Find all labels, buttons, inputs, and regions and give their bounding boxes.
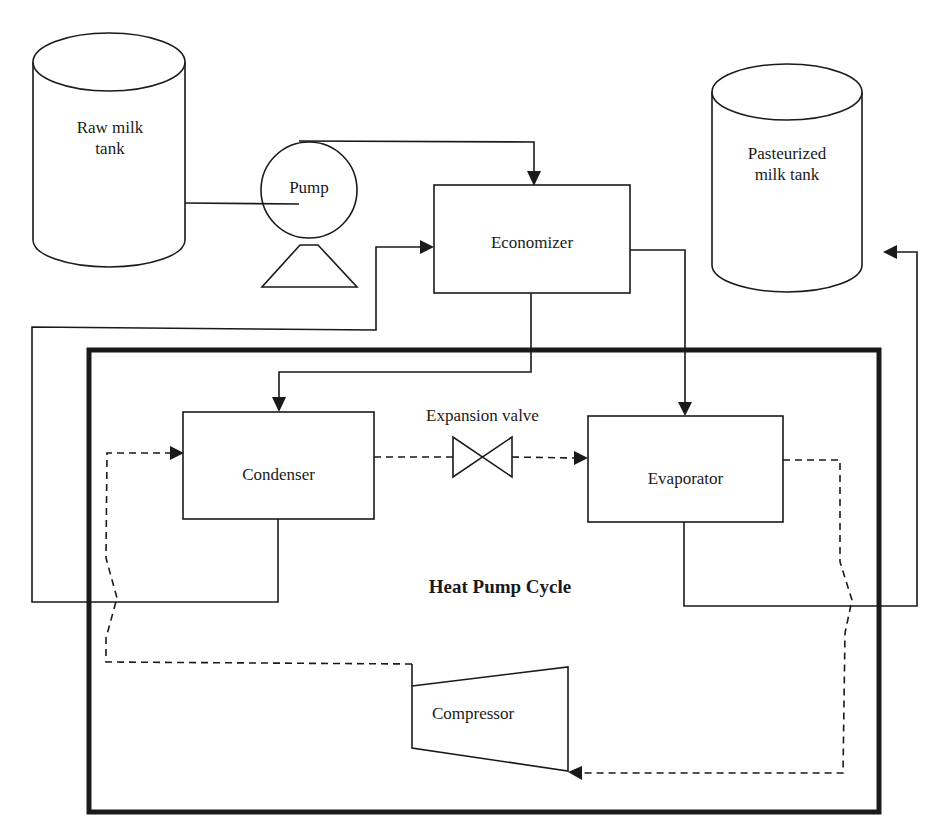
heat-pump-cycle-title: Heat Pump Cycle: [380, 576, 620, 597]
economizer-label: Economizer: [434, 232, 630, 253]
past-tank-line1: Pasteurized: [712, 143, 862, 164]
pasteurized-milk-tank-label: Pasteurized milk tank: [712, 143, 862, 185]
pump-label: Pump: [264, 177, 354, 198]
expansion-valve-icon: [453, 437, 512, 477]
condenser-label: Condenser: [183, 464, 374, 485]
compressor-label: Compressor: [412, 703, 534, 724]
raw-tank-line1: Raw milk: [58, 117, 162, 138]
raw-milk-tank-label: Raw milk tank: [58, 117, 162, 159]
evaporator-label: Evaporator: [588, 468, 783, 489]
pump-icon: [261, 142, 357, 287]
past-tank-line2: milk tank: [712, 164, 862, 185]
pipe-economizer-to-condenser: [279, 293, 531, 401]
pipe-economizer-to-evaporator: [630, 250, 685, 405]
expansion-valve-label: Expansion valve: [400, 405, 565, 426]
raw-tank-line2: tank: [58, 138, 162, 159]
pipe-tank-to-pump: [185, 203, 299, 204]
